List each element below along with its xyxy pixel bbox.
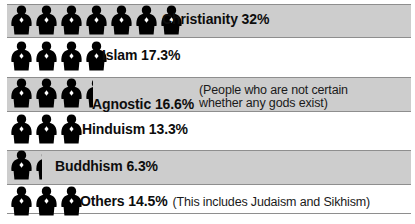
person-icon (59, 78, 84, 108)
person-icon-partial (34, 150, 42, 180)
chart-row-hinduism (0, 114, 415, 148)
person-icon (134, 5, 159, 35)
row-label-text-hinduism: Hinduism 13.3% (82, 121, 188, 137)
row-label-buddhism: Buddhism 6.3% (55, 158, 158, 174)
row-label-text-islam: Islam 17.3% (102, 47, 180, 63)
row-label-others: Others 14.5%(This includes Judaism and S… (80, 193, 370, 209)
person-icon (34, 78, 59, 108)
row-label-text-agnostic: Agnostic 16.6% (92, 96, 194, 112)
person-icon (9, 186, 34, 216)
person-icon (59, 5, 84, 35)
person-icon (84, 5, 109, 35)
person-icon (34, 186, 59, 216)
pictogram-figures-islam (9, 41, 109, 75)
row-note-lines-agnostic: (People who are not certain whether any … (199, 84, 348, 110)
person-icon (9, 114, 34, 144)
pictogram-figures-others (9, 186, 84, 220)
person-icon (59, 114, 84, 144)
religion-pictogram-chart: Christianity 32%Islam 17.3%Agnostic 16.6… (0, 0, 415, 224)
row-label-text-others: Others 14.5% (80, 193, 168, 209)
person-icon (34, 114, 59, 144)
person-icon (9, 41, 34, 71)
row-label-hinduism: Hinduism 13.3% (82, 121, 188, 137)
pictogram-figures-buddhism (9, 150, 42, 185)
person-icon (9, 78, 34, 108)
pictogram-figures-christianity (9, 5, 184, 39)
person-icon (59, 41, 84, 71)
person-icon (34, 41, 59, 71)
row-note-agnostic: (People who are not certain whether any … (199, 86, 348, 112)
row-label-text-christianity: Christianity 32% (162, 11, 269, 27)
chart-row-islam (0, 40, 415, 74)
person-icon (9, 5, 34, 35)
row-label-islam: Islam 17.3% (102, 47, 180, 63)
person-icon (34, 5, 59, 35)
row-label-text-buddhism: Buddhism 6.3% (55, 158, 158, 174)
row-label-christianity: Christianity 32% (162, 11, 269, 27)
person-icon (9, 150, 34, 180)
row-label-agnostic: Agnostic 16.6%(People who are not certai… (92, 86, 348, 112)
row-note-others: (This includes Judaism and Sikhism) (173, 195, 371, 209)
pictogram-figures-hinduism (9, 114, 84, 148)
person-icon (109, 5, 134, 35)
pictogram-figures-agnostic (9, 78, 93, 113)
